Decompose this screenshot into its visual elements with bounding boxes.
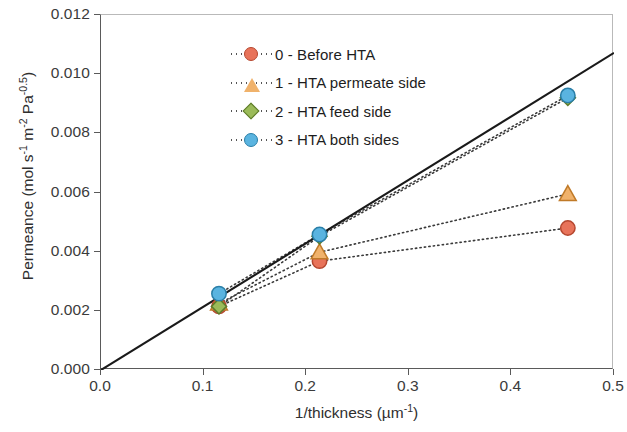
y-tick-label: 0.012 <box>28 5 90 23</box>
x-tick-label: 0.2 <box>275 377 335 395</box>
y-tick-label: 0.000 <box>28 360 90 378</box>
permeance-vs-inverse-thickness-chart: Permeance (mol s-1 m-2 Pa-0.5) 1/thickne… <box>0 0 627 432</box>
legend-item-1[interactable]: 1 - HTA permeate side <box>229 74 426 92</box>
series-line-0 <box>219 228 568 306</box>
x-tick-label: 0.1 <box>173 377 233 395</box>
data-point-s3-p0 <box>212 286 226 300</box>
plot-area: 0 - Before HTA1 - HTA permeate side2 - H… <box>100 14 613 369</box>
legend-item-3[interactable]: 3 - HTA both sides <box>229 131 426 149</box>
legend-marker-triangle-icon <box>244 76 260 92</box>
y-tick-label: 0.008 <box>28 123 90 141</box>
legend-label-2: 2 - HTA feed side <box>275 103 391 120</box>
legend-item-0[interactable]: 0 - Before HTA <box>229 45 426 63</box>
x-tick-label: 0.3 <box>378 377 438 395</box>
y-tick-label: 0.002 <box>28 301 90 319</box>
legend-key-0 <box>229 45 275 63</box>
series-line-1 <box>219 194 568 303</box>
legend-label-1: 1 - HTA permeate side <box>275 74 426 91</box>
legend-marker-circle-icon <box>244 47 258 61</box>
data-point-s1-p2 <box>559 186 576 201</box>
legend-key-2 <box>229 102 275 120</box>
data-point-s3-p2 <box>561 88 575 102</box>
x-tick-label: 0.0 <box>70 377 130 395</box>
legend-label-0: 0 - Before HTA <box>275 46 375 63</box>
legend-key-3 <box>229 131 275 149</box>
x-tick-label: 0.4 <box>480 377 540 395</box>
chart-legend: 0 - Before HTA1 - HTA permeate side2 - H… <box>229 45 426 149</box>
legend-key-1 <box>229 74 275 92</box>
data-point-s0-p2 <box>561 221 575 235</box>
y-tick-label: 0.006 <box>28 183 90 201</box>
data-point-s3-p1 <box>312 227 326 241</box>
legend-marker-diamond-icon <box>244 104 258 118</box>
y-tick-label: 0.004 <box>28 242 90 260</box>
x-axis-title: 1/thickness (µm-1) <box>100 404 613 422</box>
y-tick-label: 0.010 <box>28 64 90 82</box>
legend-item-2[interactable]: 2 - HTA feed side <box>229 102 426 120</box>
x-tick-label: 0.5 <box>583 377 627 395</box>
legend-label-3: 3 - HTA both sides <box>275 131 399 148</box>
legend-marker-circle-icon <box>244 133 258 147</box>
